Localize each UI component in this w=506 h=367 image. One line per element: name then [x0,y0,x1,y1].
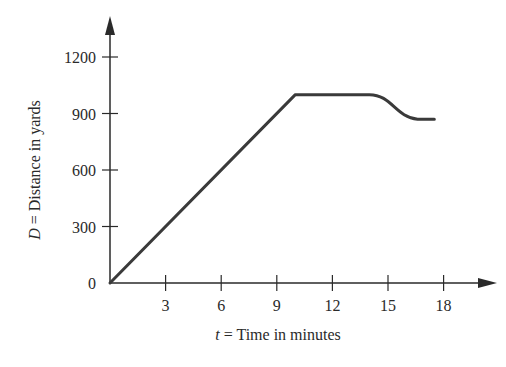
x-tick-label: 12 [324,297,340,314]
y-tick-label: 600 [72,162,96,179]
data-line [110,95,434,283]
x-tick-label: 9 [273,297,281,314]
distance-time-chart: 36912151803006009001200 t = Time in minu… [0,0,506,367]
axes [105,16,497,288]
x-tick-label: 18 [436,297,452,314]
x-tick-label: 15 [380,297,396,314]
x-axis-label: t = Time in minutes [215,326,341,343]
y-tick-label: 900 [72,106,96,123]
y-axis-label: D = Distance in yards [26,100,44,241]
ticks: 36912151803006009001200 [64,49,452,314]
x-tick-label: 6 [217,297,225,314]
x-axis-arrow-icon [478,278,497,288]
y-tick-label: 0 [88,275,96,292]
y-tick-label: 300 [72,219,96,236]
y-tick-label: 1200 [64,49,96,66]
x-axis-text: = Time in minutes [220,326,341,343]
y-axis-arrow-icon [105,16,115,35]
y-axis-variable: D [26,228,43,241]
x-tick-label: 3 [162,297,170,314]
y-axis-text: = Distance in yards [26,100,44,228]
